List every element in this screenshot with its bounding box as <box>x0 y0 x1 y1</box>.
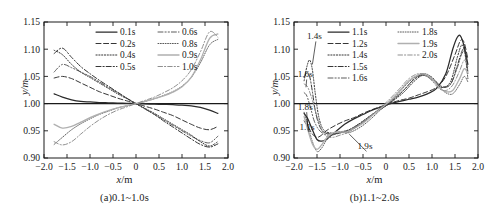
legend-label: 1.8s <box>422 27 438 37</box>
legend-label: 1.5s <box>352 62 368 72</box>
curve-annotation: 1.8s <box>298 102 313 112</box>
curve-annotation: 1.4s <box>307 31 322 41</box>
y-tick-label: 1.10 <box>23 44 40 55</box>
x-tick-label: 2.0 <box>222 161 234 172</box>
panel-b: −2.0−1.5−1.0−0.500.51.01.52.00.900.951.0… <box>250 0 499 218</box>
panel-b-svg: −2.0−1.5−1.0−0.500.51.01.52.00.900.951.0… <box>250 0 499 218</box>
x-tick-label: 0 <box>384 161 389 172</box>
x-tick-label: 1.5 <box>199 161 211 172</box>
y-tick-label: 0.90 <box>23 152 40 163</box>
x-tick-label: 1.5 <box>449 161 461 172</box>
x-tick-label: −0.5 <box>104 161 122 172</box>
figure-two-panel-line-charts: −2.0−1.5−1.0−0.500.51.01.52.00.900.951.0… <box>0 0 499 218</box>
legend-label: 2.0s <box>422 50 438 60</box>
legend-label: 0.4s <box>120 50 136 60</box>
legend-label: 1.9s <box>422 39 438 49</box>
panel-a-x-axis-label: x/m <box>0 174 249 185</box>
x-tick-label: −0.5 <box>354 161 372 172</box>
legend-label: 1.0s <box>182 62 198 72</box>
y-tick-label: 1.15 <box>23 16 40 27</box>
x-tick-label: 0.5 <box>403 161 415 172</box>
panel-a-plot: −2.0−1.5−1.0−0.500.51.01.52.00.900.951.0… <box>0 0 249 218</box>
panel-b-plot: −2.0−1.5−1.0−0.500.51.01.52.00.900.951.0… <box>250 0 499 218</box>
curve-annotation: 1.1s <box>300 122 315 132</box>
y-tick-label: 1.10 <box>273 44 290 55</box>
y-tick-label: 1.15 <box>273 16 290 27</box>
panel-b-y-axis-label: y/m <box>269 58 280 118</box>
x-tick-label: −1.5 <box>308 161 326 172</box>
panel-a-y-axis-label: y/m <box>19 58 30 118</box>
legend-label: 0.6s <box>182 27 198 37</box>
y-tick-label: 0.95 <box>23 125 40 136</box>
legend-label: 1.1s <box>352 27 368 37</box>
legend-label: 0.9s <box>182 50 198 60</box>
panel-b-x-axis-label: x/m <box>250 174 499 185</box>
x-tick-label: 0.5 <box>153 161 165 172</box>
x-tick-label: −1.0 <box>81 161 99 172</box>
curve-annotation: 1.6s <box>298 69 313 79</box>
x-tick-label: −1.0 <box>331 161 349 172</box>
legend-label: 0.8s <box>182 39 198 49</box>
x-tick-label: −1.5 <box>58 161 76 172</box>
panel-a-caption: (a)0.1~1.0s <box>0 192 249 203</box>
panel-a: −2.0−1.5−1.0−0.500.51.01.52.00.900.951.0… <box>0 0 249 218</box>
panel-b-caption: (b)1.1~2.0s <box>250 192 499 203</box>
legend-label: 0.1s <box>120 27 136 37</box>
curve-annotation: 1.9s <box>357 141 372 151</box>
x-tick-label: 2.0 <box>472 161 484 172</box>
legend-label: 0.2s <box>120 39 136 49</box>
legend-label: 1.2s <box>352 39 368 49</box>
legend-label: 0.5s <box>120 62 136 72</box>
y-tick-label: 0.90 <box>273 152 290 163</box>
x-tick-label: 1.0 <box>176 161 188 172</box>
x-tick-label: 1.0 <box>426 161 438 172</box>
panel-a-svg: −2.0−1.5−1.0−0.500.51.01.52.00.900.951.0… <box>0 0 249 218</box>
legend-label: 1.6s <box>352 73 368 83</box>
legend-label: 1.4s <box>352 50 368 60</box>
x-tick-label: 0 <box>134 161 139 172</box>
y-tick-label: 0.95 <box>273 125 290 136</box>
